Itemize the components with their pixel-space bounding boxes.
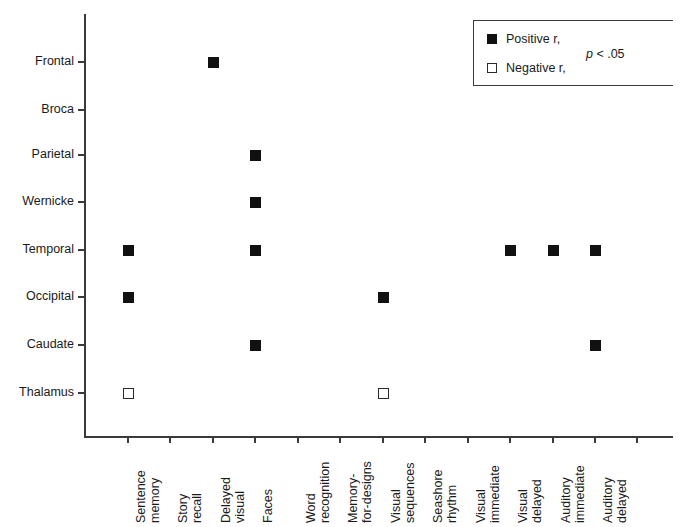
x-axis-label-line2: delayed xyxy=(616,477,630,523)
data-marker-positive xyxy=(505,245,516,256)
data-marker-positive xyxy=(590,340,601,351)
data-marker-negative xyxy=(123,388,134,399)
data-marker-positive xyxy=(208,57,219,68)
y-axis-label-parietal: Parietal xyxy=(2,148,74,161)
chart-legend: Positive r, Negative r, p < .05 xyxy=(473,20,673,86)
y-axis-labels: FrontalBrocaParietalWernickeTemporalOcci… xyxy=(0,0,74,527)
x-tick-3 xyxy=(254,437,256,443)
x-axis-label-line1: Memory- xyxy=(346,474,360,523)
data-marker-negative xyxy=(378,388,389,399)
legend-label-positive: Positive r, xyxy=(506,32,560,46)
legend-pvalue-rest: < .05 xyxy=(593,47,625,61)
x-axis-label-line1: Visual xyxy=(474,489,488,523)
x-axis-label-line1: Faces xyxy=(261,489,275,523)
x-axis-label-line2: recall xyxy=(191,493,205,523)
y-tick-caudate xyxy=(78,344,84,346)
y-tick-thalamus xyxy=(78,392,84,394)
y-tick-temporal xyxy=(78,249,84,251)
x-tick-2 xyxy=(212,437,214,443)
filled-square-icon xyxy=(487,34,497,44)
x-tick-11 xyxy=(594,437,596,443)
x-axis-label-line2: for-designs xyxy=(361,461,375,523)
data-marker-positive xyxy=(250,340,261,351)
x-axis-label-line1: Seashore xyxy=(431,469,445,523)
y-axis-label-thalamus: Thalamus xyxy=(2,386,74,399)
legend-item-positive: Positive r, xyxy=(487,32,560,46)
x-axis-label-line2: rhythm xyxy=(446,469,460,523)
y-axis-label-frontal: Frontal xyxy=(2,55,74,68)
x-axis-label-line2: recognition xyxy=(319,462,333,523)
x-tick-5 xyxy=(339,437,341,443)
legend-item-negative: Negative r, xyxy=(487,61,566,75)
x-axis-label-line2: delayed xyxy=(531,479,545,523)
chart-figure: FrontalBrocaParietalWernickeTemporalOcci… xyxy=(0,0,695,527)
y-tick-wernicke xyxy=(78,201,84,203)
x-tick-4 xyxy=(297,437,299,443)
y-axis-label-caudate: Caudate xyxy=(2,338,74,351)
x-tick-8 xyxy=(467,437,469,443)
x-tick-7 xyxy=(424,437,426,443)
x-axis-label-line2: sequences xyxy=(404,463,418,523)
legend-pvalue: p < .05 xyxy=(586,47,625,61)
data-marker-positive xyxy=(250,197,261,208)
y-axis-label-broca: Broca xyxy=(2,103,74,116)
x-tick-0 xyxy=(127,437,129,443)
y-axis-label-wernicke: Wernicke xyxy=(2,195,74,208)
x-tick-12 xyxy=(636,437,638,443)
x-axis-label-line2: visual xyxy=(234,477,248,523)
x-axis-label-line2: immediate xyxy=(489,465,503,523)
x-axis-label-line1: Visual xyxy=(516,489,530,523)
legend-pvalue-symbol: p xyxy=(586,47,593,61)
x-axis-label-line2: memory xyxy=(149,470,163,523)
x-tick-9 xyxy=(509,437,511,443)
x-axis-label-line1: Story xyxy=(176,494,190,523)
open-square-icon xyxy=(487,63,497,73)
x-axis-label-line1: Visual xyxy=(389,489,403,523)
y-tick-parietal xyxy=(78,154,84,156)
x-axis-label-line2: immediate xyxy=(574,465,588,523)
y-axis-label-temporal: Temporal xyxy=(2,243,74,256)
data-marker-positive xyxy=(250,150,261,161)
data-marker-positive xyxy=(123,292,134,303)
x-tick-6 xyxy=(382,437,384,443)
x-tick-1 xyxy=(169,437,171,443)
y-tick-frontal xyxy=(78,61,84,63)
y-tick-broca xyxy=(78,109,84,111)
y-tick-occipital xyxy=(78,296,84,298)
data-marker-positive xyxy=(123,245,134,256)
x-axis-label-line1: Auditory xyxy=(601,477,615,523)
data-marker-positive xyxy=(548,245,559,256)
data-marker-positive xyxy=(250,245,261,256)
data-marker-positive xyxy=(590,245,601,256)
x-axis-label-line1: Auditory xyxy=(559,477,573,523)
legend-label-negative: Negative r, xyxy=(506,61,566,75)
x-axis-label-line1: Word xyxy=(304,493,318,523)
x-axis-line xyxy=(84,436,673,438)
x-axis-label-line1: Sentence xyxy=(134,470,148,523)
y-axis-line xyxy=(84,14,86,438)
x-tick-10 xyxy=(552,437,554,443)
data-marker-positive xyxy=(378,292,389,303)
x-axis-label-line1: Delayed xyxy=(219,477,233,523)
y-axis-label-occipital: Occipital xyxy=(2,290,74,303)
